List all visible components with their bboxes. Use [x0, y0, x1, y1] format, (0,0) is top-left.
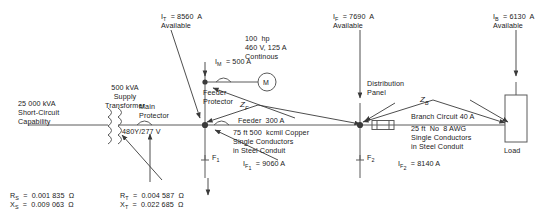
motor-rating-label: 100 hp 460 V, 125 A Continous	[245, 34, 287, 62]
main-bus-node	[202, 122, 208, 128]
one-line-diagram: 25 000 kVA Short-Circuit Capability 500 …	[0, 0, 560, 220]
it-available-label: IT = 8560 A Available	[161, 12, 202, 30]
feeder-rating-label: Feeder 300 A	[238, 116, 284, 125]
if-available-label: IF = 7690 A Available	[333, 12, 374, 30]
motor-feeder-protector-symbol	[216, 78, 231, 82]
ib-available-label: IB = 6130 A Available	[493, 12, 534, 30]
zf-impedance-label: ZF	[240, 100, 248, 109]
if1-value-label: IF1 = 9060 A	[243, 159, 285, 169]
branch-rating-label: Branch Circuit 40 A	[411, 112, 474, 121]
leader-distribution-panel	[365, 103, 395, 121]
secondary-voltage-label: 480Y/277 V	[122, 127, 161, 136]
diagram-graphics	[0, 0, 560, 220]
load-box	[505, 95, 527, 142]
if2-value-label: IF2 = 8140 A	[398, 159, 440, 169]
transformer-primary-winding	[108, 108, 112, 144]
distribution-panel-node	[357, 122, 363, 128]
distribution-panel-label: Distribution Panel	[367, 79, 404, 97]
fault-f2-label: F2	[367, 153, 375, 162]
source-capability-label: 25 000 kVA Short-Circuit Capability	[18, 99, 59, 127]
transformer-impedance-values: RT = 0.004 587 Ω XT = 0.022 685 Ω	[120, 191, 184, 209]
motor-symbol-label: M	[263, 78, 269, 87]
fault-f1-label: F1	[212, 153, 220, 162]
feeder-protector-label: Feeder Protector	[203, 88, 233, 106]
branch-cable-label: 25 ft No 8 AWG Single Conductors in Stee…	[411, 124, 471, 152]
leader-load	[470, 100, 508, 122]
motor-branch-node	[202, 79, 207, 84]
transformer-secondary-winding	[118, 108, 122, 144]
main-protector-label: Main Protector	[139, 102, 169, 120]
feeder-cable-label: 75 ft 500 kcmil Copper Single Conductors…	[233, 128, 309, 156]
load-label: Load	[504, 146, 520, 155]
leader-transformer-impedance	[122, 135, 162, 180]
leader-it-available	[171, 30, 200, 118]
feeder-protector-symbol	[214, 121, 229, 125]
zb-impedance-label: ZB	[420, 95, 429, 104]
main-protector-symbol	[137, 121, 152, 125]
source-impedance-values: RS = 0.001 835 Ω XS = 0.009 063 Ω	[10, 191, 74, 209]
